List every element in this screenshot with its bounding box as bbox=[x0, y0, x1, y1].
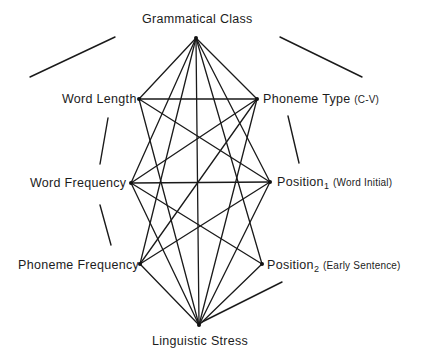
label-text: Grammatical Class bbox=[142, 12, 253, 26]
node-label-word-length: Word Length bbox=[62, 92, 137, 106]
node-p1 bbox=[268, 180, 272, 184]
node-label-grammatical-class: Grammatical Class bbox=[142, 12, 253, 26]
label-text: Linguistic Stress bbox=[152, 334, 248, 348]
label-text: Word Frequency bbox=[30, 176, 126, 190]
edge-pf-ls bbox=[140, 264, 199, 325]
node-wl bbox=[137, 97, 141, 101]
node-label-position-1: Position1 (Word Initial) bbox=[277, 175, 392, 190]
edge-wl-ls bbox=[139, 99, 199, 325]
edge-gc-p1 bbox=[196, 38, 270, 182]
label-qualifier: (Word Initial) bbox=[333, 177, 392, 188]
node-wf bbox=[129, 181, 133, 185]
label-qualifier: (C-V) bbox=[354, 94, 379, 105]
label-text: Word Length bbox=[62, 92, 137, 106]
node-label-linguistic-stress: Linguistic Stress bbox=[152, 334, 248, 348]
node-label-position-2: Position2 (Early Sentence) bbox=[267, 258, 401, 273]
outer-stroke-1 bbox=[280, 37, 362, 77]
edge-wf-p1 bbox=[131, 182, 270, 183]
node-label-word-frequency: Word Frequency bbox=[30, 176, 126, 190]
node-ls bbox=[197, 323, 201, 327]
edge-p2-ls bbox=[199, 264, 262, 325]
label-text: Phoneme Type bbox=[263, 92, 350, 106]
node-label-phoneme-type: Phoneme Type (C-V) bbox=[263, 92, 379, 107]
edge-gc-pf bbox=[140, 38, 196, 264]
edge-group bbox=[131, 38, 270, 325]
node-gc bbox=[194, 36, 198, 40]
node-pt bbox=[255, 97, 259, 101]
outer-stroke-2 bbox=[100, 118, 108, 164]
label-qualifier: (Early Sentence) bbox=[323, 260, 401, 271]
outer-stroke-0 bbox=[30, 37, 115, 77]
outer-stroke-4 bbox=[288, 116, 299, 163]
edge-pt-ls bbox=[199, 99, 257, 325]
label-subscript: 2 bbox=[314, 264, 319, 274]
label-text: Position bbox=[277, 175, 324, 189]
label-text: Phoneme Frequency bbox=[18, 258, 139, 272]
edge-wl-p1 bbox=[139, 99, 270, 182]
node-label-phoneme-frequency: Phoneme Frequency bbox=[18, 258, 139, 272]
edge-gc-wl bbox=[139, 38, 196, 99]
outer-stroke-5 bbox=[202, 282, 282, 322]
node-p2 bbox=[260, 262, 264, 266]
label-subscript: 1 bbox=[324, 181, 329, 191]
outer-stroke-3 bbox=[100, 205, 111, 245]
label-text: Position bbox=[267, 258, 314, 272]
